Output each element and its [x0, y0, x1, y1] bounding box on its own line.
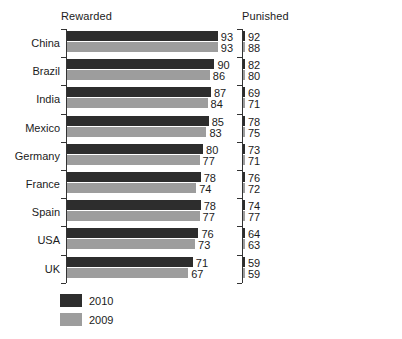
axis-tick — [237, 114, 242, 115]
axis-tick — [61, 57, 66, 58]
bar-value-label: 63 — [248, 240, 260, 251]
bar-2010-china — [243, 31, 245, 41]
bar-2009-mexico — [67, 127, 206, 137]
bar-2009-uk — [243, 268, 245, 278]
legend-swatch-icon — [60, 294, 82, 307]
axis-tick — [237, 198, 242, 199]
axis-tick — [237, 85, 242, 86]
bar-value-label: 86 — [213, 71, 225, 82]
category-label: Spain — [32, 206, 60, 218]
bar-value-label: 75 — [248, 128, 260, 139]
category-label: Germany — [15, 150, 60, 162]
bar-value-label: 85 — [212, 117, 224, 128]
bar-2009-germany — [67, 155, 200, 165]
axis-tick — [237, 29, 242, 30]
bar-2009-india — [67, 98, 208, 108]
axis-tick — [61, 114, 66, 115]
bar-value-label: 71 — [196, 258, 208, 269]
bar-2009-usa — [243, 239, 245, 249]
bar-2010-india — [243, 87, 245, 97]
axis-tick — [237, 255, 242, 256]
bar-value-label: 84 — [211, 99, 223, 110]
category-label: UK — [45, 263, 60, 275]
category-label: Mexico — [25, 122, 60, 134]
category-label: France — [26, 178, 60, 190]
bar-value-label: 74 — [199, 184, 211, 195]
category-axis-labels: ChinaBrazilIndiaMexicoGermanyFranceSpain… — [0, 29, 60, 283]
category-label: India — [36, 93, 60, 105]
bar-2010-uk — [243, 257, 245, 267]
bar-2009-france — [243, 183, 245, 193]
bar-value-label: 77 — [203, 212, 215, 223]
bar-2010-spain — [67, 200, 201, 210]
bar-2009-spain — [243, 211, 245, 221]
bar-2010-brazil — [67, 59, 214, 69]
bar-value-label: 77 — [248, 212, 260, 223]
bar-value-label: 73 — [198, 240, 210, 251]
bar-2009-france — [67, 183, 196, 193]
panel-title-rewarded: Rewarded — [61, 10, 112, 22]
legend-swatch-icon — [60, 313, 82, 326]
axis-tick — [237, 170, 242, 171]
axis-tick — [237, 57, 242, 58]
bar-2010-france — [243, 172, 245, 182]
bar-2010-france — [67, 172, 201, 182]
axis-tick — [61, 198, 66, 199]
bar-2009-india — [243, 98, 245, 108]
bar-chart: Rewarded Punished ChinaBrazilIndiaMexico… — [0, 0, 402, 339]
bar-2009-germany — [243, 155, 245, 165]
bar-2010-spain — [243, 200, 245, 210]
axis-tick — [237, 142, 242, 143]
bar-2009-china — [67, 42, 218, 52]
bar-value-label: 71 — [248, 99, 260, 110]
legend-label: 2009 — [89, 314, 113, 326]
axis-tick — [237, 283, 242, 284]
bar-2009-brazil — [67, 70, 210, 80]
bar-2010-germany — [243, 144, 245, 154]
axis-tick — [61, 283, 66, 284]
axis-tick — [61, 29, 66, 30]
bar-value-label: 93 — [221, 43, 233, 54]
bar-2010-germany — [67, 144, 203, 154]
bar-value-label: 71 — [248, 156, 260, 167]
axis-tick — [61, 255, 66, 256]
category-label: USA — [37, 234, 60, 246]
bar-2010-usa — [243, 228, 245, 238]
bar-2010-mexico — [67, 116, 209, 126]
axis-tick — [237, 226, 242, 227]
bar-2010-india — [67, 87, 211, 97]
bar-2010-china — [67, 31, 218, 41]
bar-value-label: 88 — [248, 43, 260, 54]
bar-2010-brazil — [243, 59, 245, 69]
axis-tick — [61, 170, 66, 171]
bar-value-label: 78 — [248, 117, 260, 128]
panel-title-punished: Punished — [242, 10, 289, 22]
axis-tick — [61, 226, 66, 227]
bar-value-label: 80 — [248, 71, 260, 82]
bar-2010-uk — [67, 257, 193, 267]
axis-tick — [61, 142, 66, 143]
bar-value-label: 83 — [209, 128, 221, 139]
bar-2010-mexico — [243, 116, 245, 126]
bar-2009-china — [243, 42, 245, 52]
chart-legend: 20102009 — [60, 294, 200, 334]
category-label: Brazil — [32, 65, 60, 77]
bar-2009-brazil — [243, 70, 245, 80]
category-label: China — [31, 37, 60, 49]
axis-tick — [61, 85, 66, 86]
bar-value-label: 72 — [248, 184, 260, 195]
legend-label: 2010 — [89, 295, 113, 307]
bar-value-label: 59 — [248, 258, 260, 269]
bar-2009-usa — [67, 239, 195, 249]
bar-2009-uk — [67, 268, 188, 278]
bar-2009-mexico — [243, 127, 245, 137]
bar-value-label: 77 — [203, 156, 215, 167]
bar-value-label: 59 — [248, 269, 260, 280]
bar-value-label: 67 — [191, 269, 203, 280]
bar-2010-usa — [67, 228, 198, 238]
bar-2009-spain — [67, 211, 200, 221]
